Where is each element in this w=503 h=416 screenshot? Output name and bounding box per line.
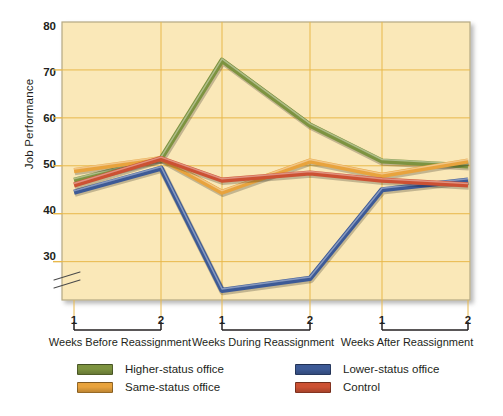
x-tick-3: 2 — [302, 314, 318, 326]
legend-item-lower-status: Lower-status office — [295, 363, 439, 375]
legend-item-higher-status: Higher-status office — [77, 363, 224, 375]
legend-swatch-control — [295, 382, 331, 393]
legend-item-same-status: Same-status office — [77, 381, 220, 393]
x-tick-2: 1 — [214, 314, 230, 326]
x-tick-1: 2 — [153, 314, 169, 326]
legend-swatch-higher-status — [77, 364, 113, 375]
plot-area — [0, 0, 503, 416]
legend-label-same-status: Same-status office — [125, 381, 220, 393]
x-axis-group — [74, 300, 468, 330]
legend-swatch-lower-status — [295, 364, 331, 375]
legend-item-control: Control — [295, 381, 380, 393]
legend-label-control: Control — [343, 381, 380, 393]
legend-label-lower-status: Lower-status office — [343, 363, 439, 375]
x-group-label-after: Weeks After Reassignment — [277, 336, 503, 348]
legend-swatch-same-status — [77, 382, 113, 393]
x-tick-4: 1 — [374, 314, 390, 326]
x-tick-0: 1 — [66, 314, 82, 326]
x-tick-5: 2 — [460, 314, 476, 326]
legend-label-higher-status: Higher-status office — [125, 363, 224, 375]
chart-legend: Higher-status office Same-status office … — [0, 358, 503, 410]
chart-figure: Job Performance 80 70 60 50 40 30 121212… — [0, 0, 503, 416]
